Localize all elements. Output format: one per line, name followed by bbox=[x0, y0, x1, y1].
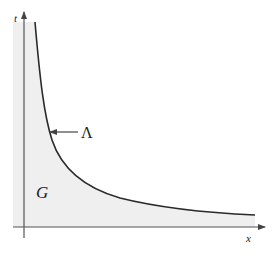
x-axis-label: x bbox=[245, 232, 251, 244]
curve-label: Λ bbox=[81, 124, 93, 141]
diagram: t x Λ G bbox=[0, 0, 277, 254]
region-label: G bbox=[36, 183, 48, 202]
region-g-shading bbox=[13, 22, 255, 227]
